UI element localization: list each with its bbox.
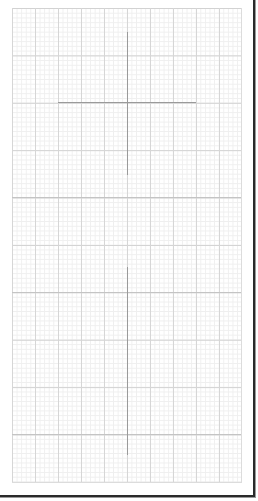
lower-vertical-guide — [127, 267, 128, 455]
frame-shadow-bottom — [0, 497, 256, 498]
grid-major-line — [12, 197, 241, 198]
frame-shadow-right — [255, 0, 256, 498]
upper-horizontal-guide — [58, 102, 196, 103]
upper-vertical-guide — [127, 32, 128, 175]
